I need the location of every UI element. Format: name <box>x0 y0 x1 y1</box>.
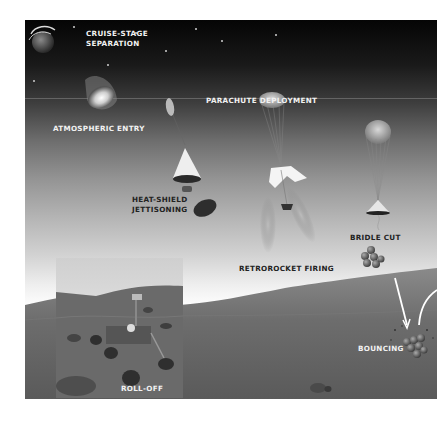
edl-illustration: CRUISE-STAGE SEPARATION ATMOSPHERIC ENTR… <box>25 20 437 399</box>
bridle-cut-label: BRIDLE CUT <box>350 233 401 243</box>
roll-off-label: ROLL-OFF <box>121 384 163 394</box>
heat-shield-line2: JETTISONING <box>132 205 187 215</box>
heat-shield-line1: HEAT-SHIELD <box>132 195 187 205</box>
retrorocket-firing-label: RETROROCKET FIRING <box>239 264 334 274</box>
heat-shield-jettisoning-label: HEAT-SHIELD JETTISONING <box>132 195 187 215</box>
bouncing-label: BOUNCING <box>358 344 404 354</box>
parachute-deployment-label: PARACHUTE DEPLOYMENT <box>206 96 317 106</box>
cruise-stage-separation-line2: SEPARATION <box>86 39 148 49</box>
cruise-stage-separation-label: CRUISE-STAGE SEPARATION <box>86 29 148 49</box>
atmospheric-entry-label: ATMOSPHERIC ENTRY <box>53 124 145 134</box>
roll-off-inset <box>56 258 183 398</box>
cruise-stage-separation-line1: CRUISE-STAGE <box>86 29 148 39</box>
